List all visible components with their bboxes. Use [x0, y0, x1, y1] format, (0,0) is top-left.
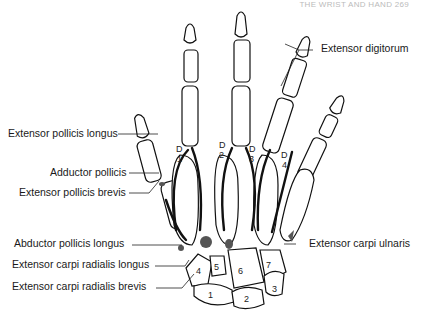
label-extensor-pollicis-brevis: Extensor pollicis brevis [19, 186, 126, 198]
svg-text:D: D [176, 144, 183, 154]
svg-text:2: 2 [244, 294, 249, 304]
svg-text:5: 5 [214, 262, 219, 272]
label-extensor-carpi-ulnaris: Extensor carpi ulnaris [309, 237, 410, 249]
svg-text:3: 3 [272, 284, 277, 294]
label-extensor-carpi-radialis-brevis: Extensor carpi radialis brevis [12, 280, 146, 292]
svg-text:2: 2 [219, 150, 224, 160]
label-abductor-pollicis-longus: Abductor pollicis longus [14, 237, 124, 249]
label-adductor-pollicis: Adductor pollicis [50, 166, 126, 178]
svg-text:4: 4 [196, 266, 201, 276]
index-finger [182, 24, 198, 146]
svg-text:3: 3 [249, 154, 254, 164]
svg-text:4: 4 [282, 160, 287, 170]
svg-text:7: 7 [266, 260, 271, 270]
svg-text:D: D [281, 150, 288, 160]
compartments: 4 5 6 7 1 2 3 [186, 248, 286, 309]
label-extensor-pollicis-longus: Extensor pollicis longus [8, 127, 118, 139]
svg-text:D: D [249, 144, 256, 154]
ring-finger [261, 34, 315, 154]
label-extensor-carpi-radialis-longus: Extensor carpi radialis longus [12, 258, 149, 270]
metacarpal-2 [172, 155, 198, 245]
svg-text:1: 1 [208, 290, 213, 300]
svg-text:D: D [219, 140, 226, 150]
svg-text:6: 6 [238, 266, 243, 276]
label-extensor-digitorum: Extensor digitorum [321, 42, 409, 54]
svg-text:1: 1 [177, 154, 182, 164]
middle-finger [232, 12, 250, 146]
